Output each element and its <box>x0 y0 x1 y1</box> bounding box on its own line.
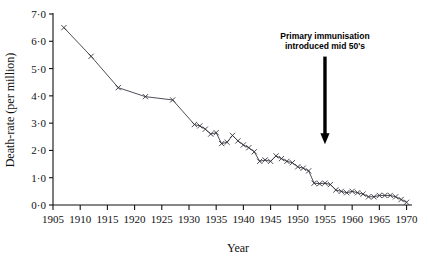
x-axis-tick-label: 1965 <box>368 213 391 225</box>
x-axis-tick-label: 1950 <box>287 213 310 225</box>
x-axis-title: Year <box>227 241 249 255</box>
y-axis-tick-label: 6·0 <box>31 35 46 47</box>
x-axis-tick-label: 1925 <box>151 213 174 225</box>
data-point-marker <box>273 153 278 158</box>
annotation-layer: Primary immunisationintroduced mid 50's <box>280 31 369 145</box>
x-axis-tick-label: 1940 <box>232 213 255 225</box>
y-axis-tick-label: 3·0 <box>31 117 46 129</box>
annotation-line-2: introduced mid 50's <box>285 41 365 51</box>
data-point-marker <box>230 133 235 138</box>
data-point-marker <box>116 85 121 90</box>
x-axis-tick-label: 1920 <box>124 213 147 225</box>
data-point-marker <box>404 200 409 205</box>
x-axis-tick-label: 1915 <box>96 213 119 225</box>
y-axis-tick-label: 4·0 <box>31 90 46 102</box>
series-polyline <box>64 28 407 203</box>
data-point-marker <box>61 25 66 30</box>
x-axis: 1905191019151920192519301935194019451950… <box>42 205 418 225</box>
annotation-line-1: Primary immunisation <box>280 31 369 41</box>
x-axis-tick-label: 1930 <box>178 213 201 225</box>
data-point-marker <box>203 127 208 132</box>
y-axis-tick-label: 7·0 <box>31 8 46 20</box>
x-axis-tick-label: 1905 <box>42 213 65 225</box>
x-axis-tick-label: 1945 <box>260 213 283 225</box>
data-point-markers <box>61 25 409 205</box>
x-axis-tick-label: 1960 <box>341 213 364 225</box>
x-axis-tick-label: 1955 <box>314 213 337 225</box>
data-point-marker <box>252 149 257 154</box>
annotation-arrow-head <box>320 133 329 144</box>
data-point-marker <box>306 168 311 173</box>
data-series-death-rate <box>64 28 407 203</box>
y-axis-title: Death-rate (per million) <box>3 53 17 168</box>
data-point-marker <box>399 197 404 202</box>
y-axis-tick-label: 2·0 <box>31 144 46 156</box>
data-point-marker <box>246 145 251 150</box>
chart-container: 0·01·02·03·04·05·06·07·0 190519101915192… <box>0 0 428 260</box>
y-axis-tick-label: 1·0 <box>31 172 46 184</box>
y-axis-tick-label: 5·0 <box>31 63 46 75</box>
death-rate-line-chart: 0·01·02·03·04·05·06·07·0 190519101915192… <box>0 0 428 260</box>
x-axis-tick-label: 1970 <box>396 213 419 225</box>
x-axis-tick-label: 1935 <box>205 213 228 225</box>
data-point-marker <box>235 138 240 143</box>
data-point-marker <box>88 54 93 59</box>
data-point-marker <box>241 142 246 147</box>
y-axis: 0·01·02·03·04·05·06·07·0 <box>31 8 53 211</box>
x-axis-tick-label: 1910 <box>69 213 92 225</box>
data-point-marker <box>279 156 284 161</box>
y-axis-tick-label: 0·0 <box>31 199 46 211</box>
